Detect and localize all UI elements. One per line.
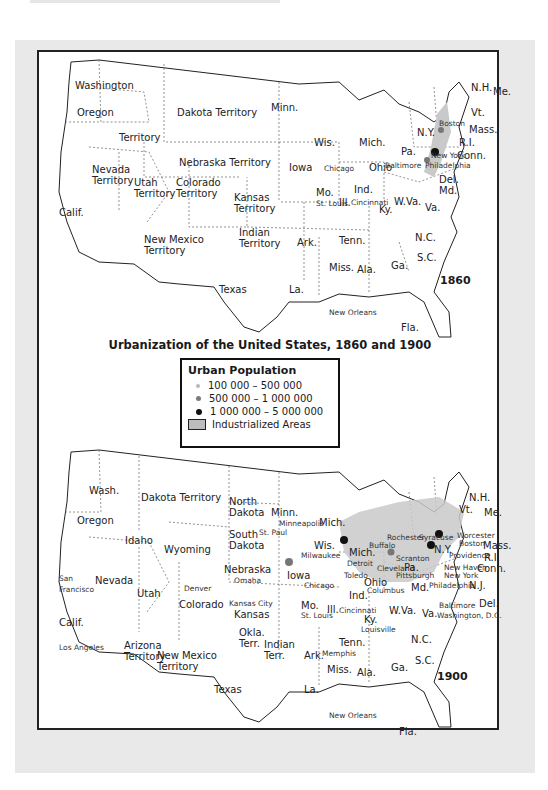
city-louisville: Louisville (361, 626, 396, 634)
city-columbus: Columbus (367, 587, 404, 595)
city-minneapolis: Minneapolis (279, 520, 324, 528)
region-wis: Wis. (314, 137, 335, 148)
year-label-1860: 1860 (440, 274, 471, 287)
region-ky-1900: Ky. (364, 614, 378, 625)
region-minn-1900: Minn. (271, 507, 298, 518)
region-la: La. (289, 284, 304, 295)
city-philadelphia: Philadelphia (425, 162, 471, 170)
region-ala-1900: Ala. (357, 667, 376, 678)
region-nc: N.C. (415, 232, 436, 243)
industrial-swatch-icon (188, 419, 206, 430)
region-ri-1900: R.I. (484, 552, 500, 563)
year-label-1900: 1900 (437, 670, 468, 683)
region-ark-1900: Ark. (304, 650, 324, 661)
region-va: Va. (425, 202, 440, 213)
legend-item-large: 1 000 000 – 5 000 000 (188, 405, 332, 418)
region-utah-territory: UtahTerritory (134, 177, 175, 199)
region-ark: Ark. (297, 237, 317, 248)
region-dakota-territory: Dakota Territory (177, 107, 257, 118)
medium-dot-icon (196, 396, 201, 401)
region-w-va-1900: W.Va. (389, 605, 416, 616)
city-new-orleans: New Orleans (329, 309, 377, 317)
legend-item-small: 100 000 – 500 000 (188, 379, 332, 392)
region-la-1900: La. (304, 684, 319, 695)
region-texas: Texas (219, 284, 247, 295)
region-utah: Utah (137, 588, 161, 599)
region-pa: Pa. (401, 146, 416, 157)
region-tenn: Tenn. (339, 235, 365, 246)
region-md: Md. (439, 185, 457, 196)
region-washington: Washington (75, 80, 134, 91)
city-buffalo: Buffalo (369, 542, 395, 550)
region-nj: N.J. (469, 580, 486, 591)
city-baltimore: Baltimore (385, 162, 421, 170)
region-tenn-1900: Tenn. (339, 637, 365, 648)
region-ala: Ala. (357, 264, 376, 275)
region-okla-terr: Okla.Terr. (239, 627, 265, 649)
region-wyoming: Wyoming (164, 544, 211, 555)
region-va-1900: Va. (422, 608, 437, 619)
region-del: Del. (439, 174, 459, 185)
region-mo: Mo. (316, 187, 334, 198)
city-omaha: Omaha (234, 577, 261, 585)
map-title: Urbanization of the United States, 1860 … (39, 338, 501, 352)
city-new-york: New York (431, 152, 465, 160)
region-new-mexico-territory: New MexicoTerritory (144, 234, 204, 256)
city-pittsburgh: Pittsburgh (396, 572, 434, 580)
region-dakota-territory-1900: Dakota Territory (141, 492, 221, 503)
small-dot-icon (196, 384, 200, 388)
region-nh: N.H. (471, 82, 492, 93)
region-sc-1900: S.C. (415, 655, 435, 666)
city-washington-dc: Washington, D.C. (437, 612, 502, 620)
region-wash: Wash. (89, 485, 119, 496)
city-los-angeles: Los Angeles (59, 644, 104, 652)
region-md-1900: Md. (411, 582, 429, 593)
city-detroit: Detroit (347, 560, 373, 568)
region-indian-terr: IndianTerr. (264, 639, 295, 661)
region-ga-1900: Ga. (391, 662, 408, 673)
region-ky: Ky. (379, 204, 393, 215)
city-boston-1900: Boston (459, 540, 485, 548)
region-nevada-territory: NevadaTerritory (92, 164, 133, 186)
map-frame: Washington Oregon Dakota Territory Minn.… (37, 50, 499, 730)
city-chicago-1900: Chicago (304, 582, 334, 590)
city-chicago: Chicago (324, 165, 354, 173)
region-mich: Mich. (359, 137, 385, 148)
region-me: Me. (493, 86, 511, 97)
region-ill: Ill. (339, 197, 351, 208)
city-new-york-1900: New York (444, 572, 478, 580)
region-calif: Calif. (59, 207, 84, 218)
region-mass-1900: Mass. (483, 540, 511, 551)
region-oregon-1900: Oregon (77, 515, 114, 526)
region-new-mexico-territory-1900: New MexicoTerritory (157, 650, 217, 672)
region-calif-1900: Calif. (59, 617, 84, 628)
city-new-orleans-1900: New Orleans (329, 712, 377, 720)
region-nc-1900: N.C. (411, 634, 432, 645)
legend-item-medium: 500 000 – 1 000 000 (188, 392, 332, 405)
region-minn: Minn. (271, 102, 298, 113)
large-dot-icon (196, 409, 202, 415)
region-ind: Ind. (354, 184, 373, 195)
city-syracuse: Syracuse (419, 534, 453, 542)
city-memphis: Memphis (322, 650, 356, 658)
legend-item-industrial: Industrialized Areas (188, 418, 332, 431)
region-del-1900: Del. (479, 598, 499, 609)
region-colorado-territory: ColoradoTerritory (176, 177, 221, 199)
region-fla-1900: Fla. (399, 726, 417, 737)
city-baltimore-1900: Baltimore (439, 602, 475, 610)
region-mich-upper: Mich. (319, 517, 345, 528)
region-miss: Miss. (329, 262, 354, 273)
legend-heading: Urban Population (188, 364, 332, 377)
region-iowa: Iowa (289, 162, 312, 173)
region-vt: Vt. (471, 107, 485, 118)
region-fla: Fla. (401, 322, 419, 333)
region-nevada: Nevada (95, 575, 133, 586)
region-me-1900: Me. (484, 507, 502, 518)
region-kansas-territory: KansasTerritory (234, 192, 275, 214)
city-philadelphia-1900: Philadelphia (429, 582, 475, 590)
region-texas-1900: Texas (214, 684, 242, 695)
region-miss-1900: Miss. (327, 664, 352, 675)
city-kansas-city: Kansas City (229, 600, 273, 608)
region-wis-1900: Wis. (314, 540, 335, 551)
region-ill-1900: Ill. (327, 604, 339, 615)
